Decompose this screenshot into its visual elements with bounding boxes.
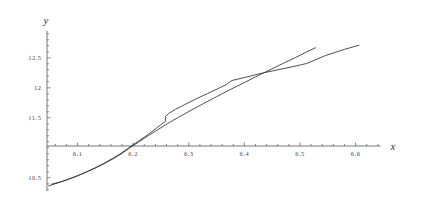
plot-canvas: 6.16.26.36.46.56.6 10.511.51212.5 x y <box>0 0 433 207</box>
x-tick-label: 6.2 <box>128 150 138 157</box>
y-axis-ticks <box>47 34 51 190</box>
x-tick-label: 6.1 <box>73 150 83 157</box>
y-axis-tick-labels: 10.511.51212.5 <box>28 54 41 181</box>
y-tick-label: 12 <box>34 84 42 91</box>
x-tick-label: 6.6 <box>351 150 361 157</box>
series-line-curve-1 <box>51 45 358 184</box>
x-tick-label: 6.3 <box>184 150 194 157</box>
series-line-curve-2 <box>49 48 316 186</box>
x-axis-label: x <box>390 140 396 152</box>
x-tick-label: 6.5 <box>295 150 305 157</box>
x-axis-ticks <box>55 142 377 146</box>
y-tick-label: 12.5 <box>28 54 41 61</box>
x-tick-label: 6.4 <box>240 150 250 157</box>
y-axis-label: y <box>43 14 49 26</box>
plot-figure: 6.16.26.36.46.56.6 10.511.51212.5 x y <box>0 0 433 207</box>
data-series-layer <box>49 45 359 186</box>
x-axis-tick-labels: 6.16.26.36.46.56.6 <box>73 150 361 157</box>
y-tick-label: 10.5 <box>28 174 41 181</box>
y-tick-label: 11.5 <box>28 114 41 121</box>
